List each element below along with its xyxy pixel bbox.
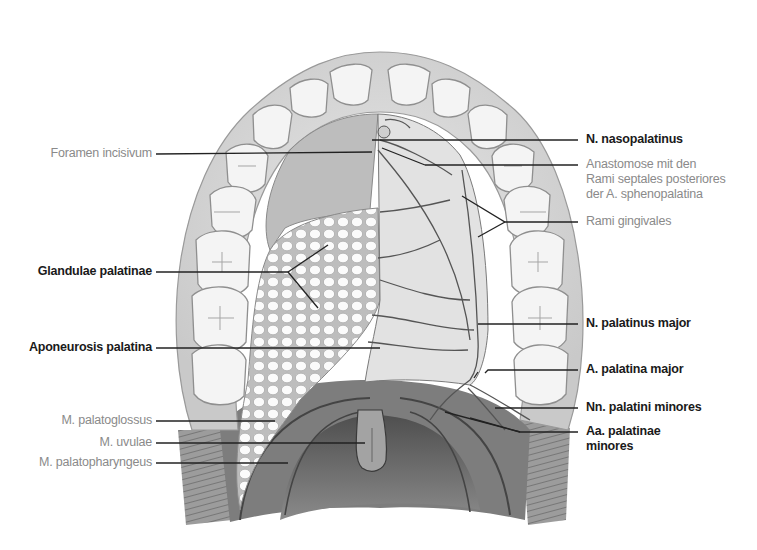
label-m-palatopharyngeus: M. palatopharyngeus bbox=[39, 455, 152, 470]
label-n-palatinus-major: N. palatinus major bbox=[586, 316, 691, 331]
label-rami-gingivales: Rami gingivales bbox=[586, 214, 671, 229]
label-m-uvulae: M. uvulae bbox=[100, 435, 152, 450]
label-m-palatoglossus: M. palatoglossus bbox=[61, 413, 152, 428]
palate-anatomy-figure: Foramen incisivum Glandulae palatinae Ap… bbox=[0, 0, 757, 550]
label-glandulae-palatinae: Glandulae palatinae bbox=[38, 264, 152, 279]
label-nn-palatini-minores: Nn. palatini minores bbox=[586, 400, 701, 415]
label-aa-palatinae-minores: Aa. palatinae minores bbox=[586, 424, 661, 454]
label-aponeurosis-palatina: Aponeurosis palatina bbox=[29, 340, 152, 355]
uvula bbox=[356, 410, 386, 471]
label-n-nasopalatinus: N. nasopalatinus bbox=[586, 132, 683, 147]
foramen-incisivum-shape bbox=[378, 126, 390, 138]
label-anastomose-rami-septales: Anastomose mit den Rami septales posteri… bbox=[586, 157, 726, 202]
label-foramen-incisivum: Foramen incisivum bbox=[51, 146, 153, 161]
label-a-palatina-major: A. palatina major bbox=[586, 362, 683, 377]
